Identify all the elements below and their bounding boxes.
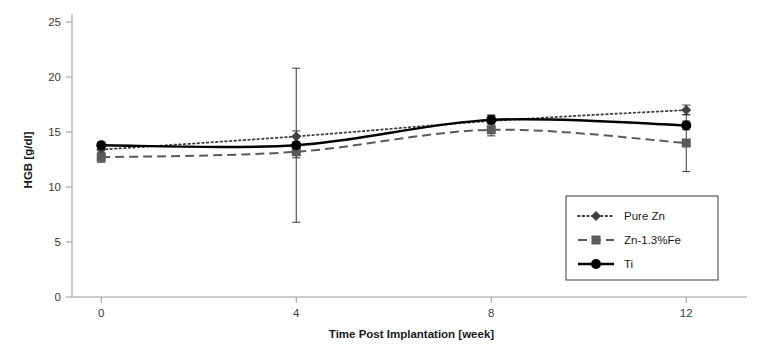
data-point-zn-1-3-fe [487, 125, 496, 134]
x-axis-tick-label: 0 [98, 307, 104, 319]
y-axis-tick-label: 0 [55, 291, 61, 303]
series-line-pure-zn [101, 110, 686, 150]
data-point-zn-1-3-fe [97, 153, 106, 162]
y-axis-tick-label: 25 [48, 16, 61, 28]
x-axis-title: Time Post Implantation [week] [329, 328, 494, 340]
x-axis-tick-label: 8 [488, 307, 494, 319]
data-point-pure-zn [291, 131, 301, 141]
legend-marker-circle-icon [591, 259, 601, 269]
data-point-pure-zn [681, 105, 691, 115]
series-line-ti [101, 119, 686, 147]
legend-label: Zn-1.3%Fe [624, 234, 681, 246]
data-point-zn-1-3-fe [682, 139, 691, 148]
y-axis-tick-label: 20 [48, 71, 61, 83]
x-axis-tick-label: 4 [293, 307, 300, 319]
y-axis-tick-label: 10 [48, 181, 61, 193]
y-axis-tick-label: 15 [48, 126, 61, 138]
hgb-line-chart: 051015202504812Time Post Implantation [w… [0, 0, 759, 359]
legend-marker-square-icon [592, 236, 601, 245]
chart-canvas: 051015202504812Time Post Implantation [w… [0, 0, 759, 359]
data-point-ti [291, 140, 301, 150]
legend-label: Ti [624, 258, 633, 270]
y-axis-tick-label: 5 [55, 236, 61, 248]
x-axis-tick-label: 12 [680, 307, 693, 319]
data-point-ti [486, 115, 496, 125]
data-point-ti [681, 120, 691, 130]
data-point-ti [96, 140, 106, 150]
page-edge-artifact [0, 345, 759, 359]
legend-label: Pure Zn [624, 210, 665, 222]
y-axis-title: HGB [g/dl] [22, 131, 34, 188]
